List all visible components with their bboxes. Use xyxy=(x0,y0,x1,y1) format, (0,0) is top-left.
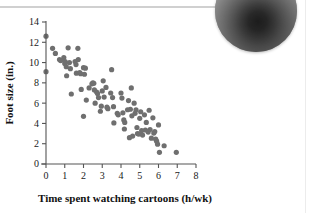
data-point xyxy=(109,67,114,72)
y-axis-tick-label: 10 xyxy=(29,57,39,68)
data-point xyxy=(152,129,157,134)
data-point xyxy=(128,107,133,112)
data-point xyxy=(84,98,89,103)
data-point xyxy=(63,59,68,64)
y-axis-tick-label: 12 xyxy=(29,37,39,48)
data-point xyxy=(162,143,167,148)
data-point xyxy=(98,109,103,114)
data-point xyxy=(140,132,145,137)
data-point xyxy=(157,150,162,155)
figure-page: 02468101214012345678 Time spent watching… xyxy=(0,0,313,213)
data-point xyxy=(66,45,71,50)
x-axis-tick-label: 0 xyxy=(44,170,49,181)
data-point xyxy=(101,78,106,83)
data-point xyxy=(111,104,116,109)
data-point xyxy=(144,120,149,125)
y-axis-tick-label: 14 xyxy=(29,16,39,27)
data-point xyxy=(137,116,142,121)
x-axis-tick-label: 5 xyxy=(137,170,142,181)
data-point xyxy=(155,142,160,147)
data-point xyxy=(126,98,131,103)
data-point xyxy=(156,122,161,127)
data-point xyxy=(91,81,96,86)
data-point xyxy=(73,62,78,67)
data-point xyxy=(93,101,98,106)
data-point xyxy=(105,106,110,111)
data-point xyxy=(53,51,58,56)
data-point xyxy=(76,57,81,62)
y-axis-title: Foot size (in.) xyxy=(3,61,16,125)
data-point xyxy=(81,114,86,119)
y-axis-tick-label: 6 xyxy=(34,98,39,109)
y-axis-tick-label: 4 xyxy=(34,118,39,129)
x-axis-tick-label: 6 xyxy=(156,170,161,181)
data-point xyxy=(82,72,87,77)
data-point xyxy=(79,87,84,92)
data-point xyxy=(149,136,154,141)
scatter-plot-canvas: 02468101214012345678 Time spent watching… xyxy=(0,0,313,213)
data-point xyxy=(99,104,104,109)
data-point xyxy=(102,94,107,99)
data-point xyxy=(96,95,101,100)
data-point xyxy=(64,73,69,78)
data-point xyxy=(110,95,115,100)
data-point xyxy=(67,60,72,65)
data-point xyxy=(174,150,179,155)
data-point xyxy=(75,46,80,51)
x-axis-tick-label: 3 xyxy=(100,170,105,181)
data-point xyxy=(103,85,108,90)
data-point xyxy=(120,110,125,115)
data-point xyxy=(119,95,124,100)
x-axis-tick-label: 8 xyxy=(194,170,199,181)
data-point xyxy=(132,101,137,106)
data-point xyxy=(111,120,116,125)
data-point xyxy=(134,125,139,130)
data-point xyxy=(150,115,155,120)
y-axis-tick-label: 2 xyxy=(34,138,39,149)
data-point xyxy=(130,134,135,139)
x-axis-tick-label: 1 xyxy=(62,170,67,181)
data-point xyxy=(147,108,152,113)
x-axis-tick-label: 7 xyxy=(175,170,180,181)
data-point xyxy=(116,112,121,117)
x-axis-title: Time spent watching cartoons (h/wk) xyxy=(38,192,212,205)
data-point xyxy=(122,126,127,131)
y-axis-tick-label: 0 xyxy=(34,158,39,169)
data-point xyxy=(118,90,123,95)
x-axis-tick-label: 2 xyxy=(81,170,86,181)
y-axis-tick-label: 8 xyxy=(34,77,39,88)
data-point xyxy=(83,66,88,71)
data-point xyxy=(122,120,127,125)
data-points-layer xyxy=(43,34,179,155)
data-point xyxy=(129,85,134,90)
data-point xyxy=(142,112,147,117)
data-point xyxy=(50,46,55,51)
data-point xyxy=(69,91,74,96)
x-axis-tick-label: 4 xyxy=(119,170,124,181)
scatter-plot: 02468101214012345678 Time spent watching… xyxy=(0,0,313,213)
data-point xyxy=(108,90,113,95)
data-point xyxy=(133,107,138,112)
data-point xyxy=(68,66,73,71)
